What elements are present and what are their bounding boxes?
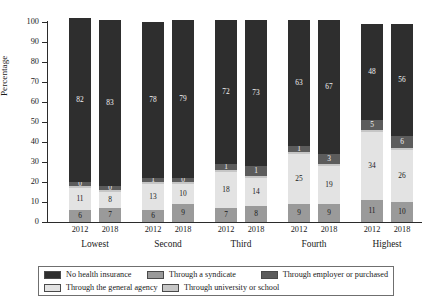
bar-segment[interactable]: 72 <box>215 20 237 164</box>
bar-segment[interactable] <box>318 164 340 166</box>
bar-segment[interactable]: 1 <box>288 146 310 152</box>
bar-segment[interactable]: 56 <box>391 24 413 136</box>
bar-segment[interactable]: 63 <box>288 20 310 146</box>
bar-segment[interactable] <box>215 170 237 172</box>
bar-segment[interactable]: 1 <box>215 164 237 170</box>
segment-value-label: 6 <box>400 138 404 145</box>
segment-value-label: 10 <box>179 190 186 197</box>
y-tick-label: 10 <box>0 198 39 206</box>
x-axis-group-label: Highest <box>347 239 427 249</box>
bar-segment[interactable]: 25 <box>288 154 310 204</box>
bar-segment[interactable] <box>99 190 121 192</box>
plot-area: 6110827808361317891007971817281417392516… <box>47 22 422 222</box>
bar-third-2012[interactable]: 718172 <box>215 22 237 222</box>
segment-value-label: 72 <box>222 88 229 95</box>
segment-value-label: 14 <box>252 188 259 195</box>
bar-segment[interactable]: 83 <box>99 20 121 186</box>
bar-segment[interactable]: 18 <box>215 172 237 208</box>
legend-label: No health insurance <box>66 270 131 279</box>
bar-segment[interactable]: 78 <box>142 22 164 178</box>
legend-item[interactable]: No health insurance <box>44 270 147 279</box>
bar-segment[interactable]: 11 <box>69 188 91 210</box>
bar-segment[interactable]: 5 <box>361 120 383 130</box>
segment-value-label: 82 <box>76 96 83 103</box>
x-tick-year-label: 2012 <box>136 225 170 234</box>
bar-second-2018[interactable]: 910079 <box>172 22 194 222</box>
x-tick-year-label: 2012 <box>355 225 389 234</box>
segment-value-label: 18 <box>222 186 229 193</box>
segment-value-label: 1 <box>224 164 228 170</box>
bar-segment[interactable]: 67 <box>318 20 340 154</box>
legend-row: Through the general agencyThrough univer… <box>44 283 388 296</box>
bar-segment[interactable]: 11 <box>361 200 383 222</box>
bar-segment[interactable]: 79 <box>172 20 194 178</box>
bar-segment[interactable]: 1 <box>245 166 267 176</box>
bar-lowest-2018[interactable]: 78083 <box>99 22 121 222</box>
y-tick-label: 30 <box>0 158 39 166</box>
segment-value-label: 0 <box>108 186 112 190</box>
segment-value-label: 9 <box>327 209 331 216</box>
y-tick-label: 60 <box>0 98 39 106</box>
bar-segment[interactable]: 1 <box>142 178 164 182</box>
bar-third-2018[interactable]: 814173 <box>245 22 267 222</box>
legend-item[interactable]: Through employer or purchased <box>261 270 388 279</box>
bar-segment[interactable] <box>288 152 310 154</box>
legend-swatch-icon <box>162 284 179 292</box>
bar-segment[interactable] <box>142 182 164 184</box>
bar-segment[interactable]: 6 <box>142 210 164 222</box>
y-tick-label: 40 <box>0 138 39 146</box>
segment-value-label: 25 <box>295 175 302 182</box>
bar-segment[interactable]: 13 <box>142 184 164 210</box>
legend-item[interactable]: Through university or school <box>162 283 292 292</box>
bar-segment[interactable]: 19 <box>318 166 340 204</box>
bar-fourth-2012[interactable]: 925163 <box>288 22 310 222</box>
segment-value-label: 73 <box>252 89 259 96</box>
segment-value-label: 63 <box>295 79 302 86</box>
bar-segment[interactable]: 73 <box>245 20 267 166</box>
segment-value-label: 7 <box>224 211 228 218</box>
legend-row: No health insuranceThrough a syndicateTh… <box>44 270 388 283</box>
bar-segment[interactable] <box>245 176 267 178</box>
bar-segment[interactable] <box>69 186 91 188</box>
legend-item[interactable]: Through a syndicate <box>147 270 261 279</box>
bar-segment[interactable]: 0 <box>172 178 194 182</box>
bar-segment[interactable]: 9 <box>172 204 194 222</box>
bar-segment[interactable]: 0 <box>69 182 91 186</box>
bar-segment[interactable]: 7 <box>215 208 237 222</box>
bar-fourth-2018[interactable]: 919367 <box>318 22 340 222</box>
bar-segment[interactable]: 48 <box>361 24 383 120</box>
bar-segment[interactable]: 6 <box>391 136 413 148</box>
x-axis-line <box>47 222 422 223</box>
bar-segment[interactable]: 8 <box>245 206 267 222</box>
segment-value-label: 0 <box>181 178 185 182</box>
bar-segment[interactable]: 9 <box>318 204 340 222</box>
chart-legend: No health insuranceThrough a syndicateTh… <box>38 266 394 296</box>
bar-lowest-2012[interactable]: 611082 <box>69 22 91 222</box>
bar-segment[interactable]: 10 <box>172 184 194 204</box>
bar-segment[interactable] <box>391 148 413 150</box>
bar-segment[interactable]: 8 <box>99 192 121 208</box>
bar-segment[interactable] <box>361 130 383 132</box>
x-axis-group-label: Lowest <box>55 239 135 249</box>
x-tick-year-label: 2018 <box>239 225 273 234</box>
bar-segment[interactable]: 14 <box>245 178 267 206</box>
bar-highest-2012[interactable]: 1134548 <box>361 22 383 222</box>
x-tick-year-label: 2018 <box>385 225 419 234</box>
bar-segment[interactable]: 7 <box>99 208 121 222</box>
bar-segment[interactable]: 0 <box>99 186 121 190</box>
bar-second-2012[interactable]: 613178 <box>142 22 164 222</box>
bar-segment[interactable]: 34 <box>361 132 383 200</box>
x-axis-group-label: Fourth <box>274 239 354 249</box>
bar-segment[interactable]: 10 <box>391 202 413 222</box>
x-tick-year-label: 2018 <box>312 225 346 234</box>
legend-item[interactable]: Through the general agency <box>44 283 162 292</box>
segment-value-label: 9 <box>181 209 185 216</box>
bar-segment[interactable] <box>172 182 194 184</box>
y-tick-label: 20 <box>0 178 39 186</box>
bar-segment[interactable]: 3 <box>318 154 340 164</box>
bar-segment[interactable]: 6 <box>69 210 91 222</box>
bar-highest-2018[interactable]: 1026656 <box>391 22 413 222</box>
bar-segment[interactable]: 82 <box>69 18 91 182</box>
bar-segment[interactable]: 9 <box>288 204 310 222</box>
bar-segment[interactable]: 26 <box>391 150 413 202</box>
